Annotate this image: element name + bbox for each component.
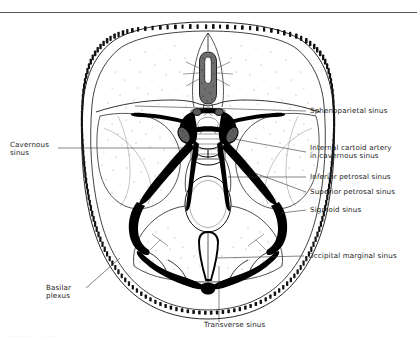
leader-sigmoid xyxy=(281,210,306,213)
label-internal-carotid-artery: Internal cartoid artery in cavernous sin… xyxy=(310,144,392,161)
sphenoparietal-sinus-right xyxy=(230,113,285,124)
label-cavernous-sinus: Cavernous sinus xyxy=(10,141,49,158)
leader-internal-carotid xyxy=(234,139,306,152)
occipital-marginal-sinus xyxy=(199,232,218,280)
page-top-rule xyxy=(0,12,417,13)
leader-basilar-plexus xyxy=(86,258,120,288)
label-basilar-plexus: Basilar plexus xyxy=(46,284,71,301)
transverse-sinus-left xyxy=(137,251,204,289)
label-inferior-petrosal-sinus: Inferior petrosal sinus xyxy=(310,173,391,181)
intercavernous-sinus-posterior xyxy=(193,126,224,133)
label-sigmoid-sinus: Sigmoid sinus xyxy=(310,206,361,214)
label-sphenoparietal-sinus: Sphenoparietal sinus xyxy=(310,107,388,115)
sigmoid-sinus-left xyxy=(129,202,150,255)
label-superior-petrosal-sinus: Superior petrosal sinus xyxy=(310,188,395,196)
label-transverse-sinus: Transverse sinus xyxy=(204,321,265,329)
label-occipital-marginal-sinus: Occipital marginal sinus xyxy=(308,252,397,260)
posterior-cranial-fossa xyxy=(134,159,283,282)
page-caption-partial: · · · · · · · · · · · xyxy=(8,333,338,340)
sphenoparietal-sinus-left xyxy=(131,113,186,124)
sigmoid-sinus-right xyxy=(266,202,287,255)
anatomical-figure: Sphenoparietal sinus Cavernous sinus Int… xyxy=(0,0,417,341)
confluence-of-sinuses xyxy=(201,283,216,295)
